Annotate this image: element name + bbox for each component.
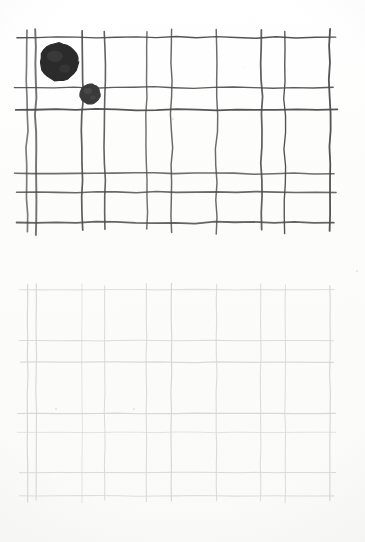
grid-line-vertical: [284, 31, 286, 233]
grid-line-vertical: [170, 29, 172, 232]
grid-line-vertical: [104, 286, 105, 500]
large-stone: [41, 43, 79, 81]
grid-line-vertical: [104, 32, 105, 230]
grid-line-horizontal: [15, 173, 334, 175]
grid-line-vertical: [81, 31, 83, 230]
large-stone-graphite-sheen: [47, 51, 63, 62]
grid-line-vertical: [146, 32, 148, 229]
top-grid-panel: [0, 0, 365, 250]
grid-line-vertical: [260, 284, 261, 501]
large-stone-fill: [41, 43, 79, 81]
grid-line-horizontal: [19, 340, 333, 341]
grid-line-vertical: [26, 30, 28, 232]
grid-line-vertical: [146, 283, 147, 501]
grid-line-horizontal: [18, 413, 336, 414]
grid-line-vertical: [216, 284, 217, 500]
grid-line-vertical: [27, 285, 28, 502]
top-grid-lines: [14, 29, 337, 235]
grid-line-horizontal: [16, 109, 338, 111]
bottom-grid-drawing: [0, 266, 365, 526]
grid-line-horizontal: [20, 472, 336, 473]
grid-line-horizontal: [14, 87, 333, 89]
grid-line-horizontal: [21, 362, 334, 363]
grid-line-vertical: [82, 284, 83, 503]
bottom-grid-panel: [0, 266, 365, 526]
grid-line-horizontal: [17, 191, 336, 192]
top-grid-drawing: [0, 0, 365, 250]
scan-page: [0, 0, 365, 542]
grid-line-vertical: [329, 29, 331, 231]
grid-line-vertical: [36, 284, 37, 500]
grid-line-horizontal: [17, 37, 336, 39]
grid-line-vertical: [261, 30, 263, 230]
grid-line-vertical: [285, 285, 286, 503]
small-stone-graphite-sheen: [90, 95, 96, 99]
grid-line-vertical: [35, 29, 36, 235]
grid-line-horizontal: [19, 496, 334, 497]
small-stone-graphite-sheen: [84, 88, 92, 94]
large-stone-graphite-sheen: [59, 64, 70, 72]
grid-line-vertical: [171, 283, 172, 501]
grid-line-vertical: [330, 286, 331, 501]
grid-line-horizontal: [17, 222, 334, 224]
bottom-grid-lines: [17, 283, 336, 502]
grid-line-horizontal: [17, 432, 335, 433]
grid-line-vertical: [215, 29, 217, 234]
grid-line-horizontal: [20, 289, 335, 290]
